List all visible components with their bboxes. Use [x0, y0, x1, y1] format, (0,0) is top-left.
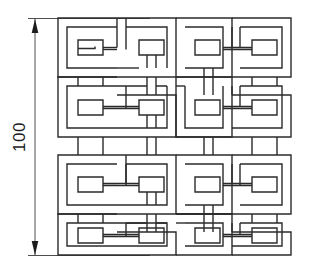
arrowhead-down-icon — [32, 241, 39, 255]
interlock-connectors — [78, 68, 277, 232]
motif-r2c1 — [58, 77, 117, 137]
motif-r4c1 — [58, 214, 117, 255]
motif-r2c2 — [117, 86, 176, 155]
motif-r3c3 — [176, 155, 240, 214]
arrowhead-up-icon — [32, 19, 39, 33]
motif-r3c2 — [117, 155, 176, 232]
technical-drawing-figure: 100 — [0, 0, 309, 278]
motif-r1c4 — [232, 18, 291, 77]
motif-r2c4 — [232, 86, 291, 137]
motif-r4c3 — [176, 214, 240, 255]
motif-r1c2 — [117, 18, 176, 95]
motif-r1c1 — [58, 18, 117, 77]
greek-key-knot-pattern — [58, 18, 291, 255]
motif-r4c2 — [117, 223, 176, 255]
motif-r4c4 — [232, 223, 291, 255]
motif-r2c3 — [176, 77, 240, 137]
motif-r3c1 — [58, 155, 117, 214]
motif-r3c4 — [232, 155, 291, 214]
dimension-value-label: 100 — [0, 123, 49, 151]
motif-r1c3 — [176, 18, 240, 77]
